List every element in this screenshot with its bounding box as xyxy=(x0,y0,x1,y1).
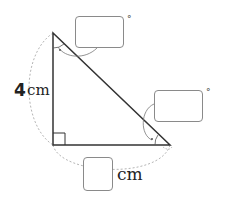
horizontal-side-unit: cm xyxy=(117,166,143,183)
right-angle-marker xyxy=(53,133,65,145)
right-vertex-angle-arc xyxy=(155,135,158,145)
top-angle-degree-symbol: ° xyxy=(127,15,132,24)
vertical-side-value: 4 xyxy=(14,82,26,99)
right-vertex-outer-arc xyxy=(163,147,172,149)
top-angle-answer-box[interactable] xyxy=(75,16,124,48)
horizontal-side-answer-box[interactable] xyxy=(83,157,113,191)
vertical-side-unit: cm xyxy=(27,83,50,98)
right-vertex-angle-answer-box[interactable] xyxy=(154,90,203,122)
right-vertex-callout-arc xyxy=(143,104,154,140)
top-angle-dot xyxy=(59,49,61,51)
top-angle-callout-arc xyxy=(58,47,97,56)
right-triangle xyxy=(53,33,170,145)
right-vertex-degree-symbol: ° xyxy=(206,88,211,97)
right-vertex-angle-dot xyxy=(151,138,153,140)
